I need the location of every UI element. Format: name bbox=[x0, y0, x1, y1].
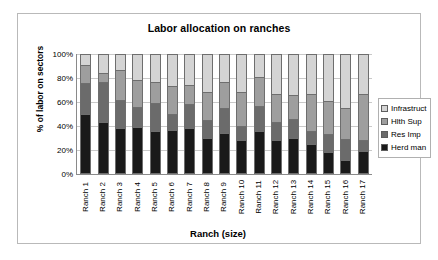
bar-segment[interactable] bbox=[254, 106, 265, 131]
bar-segment[interactable] bbox=[254, 77, 265, 106]
bar-segment[interactable] bbox=[254, 131, 265, 174]
bar-segment[interactable] bbox=[271, 94, 282, 123]
bar-column[interactable] bbox=[98, 54, 109, 174]
bar-segment[interactable] bbox=[98, 82, 109, 123]
bar-column[interactable] bbox=[306, 54, 317, 174]
bar-segment[interactable] bbox=[150, 103, 161, 131]
bar-segment[interactable] bbox=[236, 54, 247, 92]
bar-column[interactable] bbox=[236, 54, 247, 174]
bar-segment[interactable] bbox=[184, 128, 195, 174]
x-axis-tick-label: Ranch 3 bbox=[115, 182, 124, 212]
x-axis-tick-label: Ranch 14 bbox=[306, 180, 315, 214]
bar-segment[interactable] bbox=[132, 107, 143, 127]
bar-column[interactable] bbox=[167, 54, 178, 174]
x-axis-tick-label: Ranch 17 bbox=[358, 180, 367, 214]
bar-segment[interactable] bbox=[80, 54, 91, 65]
bar-segment[interactable] bbox=[358, 140, 369, 151]
bar-segment[interactable] bbox=[271, 140, 282, 174]
bar-column[interactable] bbox=[80, 54, 91, 174]
bar-segment[interactable] bbox=[184, 104, 195, 128]
legend-item[interactable]: Herd man bbox=[381, 141, 427, 154]
bar-column[interactable] bbox=[115, 54, 126, 174]
bar-segment[interactable] bbox=[254, 54, 265, 77]
x-axis-tick-wrapper: Ranch 10 bbox=[235, 175, 246, 227]
bar-segment[interactable] bbox=[271, 54, 282, 94]
bar-segment[interactable] bbox=[167, 54, 178, 86]
bar-segment[interactable] bbox=[340, 108, 351, 139]
bar-segment[interactable] bbox=[115, 100, 126, 129]
bar-column[interactable] bbox=[254, 54, 265, 174]
bar-segment[interactable] bbox=[340, 54, 351, 108]
x-axis-tick-label: Ranch 7 bbox=[184, 182, 193, 212]
x-axis-tick-label: Ranch 15 bbox=[323, 180, 332, 214]
bar-segment[interactable] bbox=[306, 94, 317, 131]
bar-column[interactable] bbox=[132, 54, 143, 174]
bar-segment[interactable] bbox=[98, 73, 109, 81]
bar-column[interactable] bbox=[202, 54, 213, 174]
bar-segment[interactable] bbox=[132, 54, 143, 80]
bar-segment[interactable] bbox=[358, 94, 369, 141]
bar-segment[interactable] bbox=[150, 131, 161, 174]
bar-segment[interactable] bbox=[184, 85, 195, 104]
bar-segment[interactable] bbox=[98, 122, 109, 174]
bar-segment[interactable] bbox=[288, 119, 299, 138]
legend-color-swatch-icon bbox=[381, 118, 388, 125]
bar-column[interactable] bbox=[288, 54, 299, 174]
bar-segment[interactable] bbox=[115, 70, 126, 100]
bar-segment[interactable] bbox=[202, 54, 213, 92]
bar-segment[interactable] bbox=[150, 54, 161, 82]
bar-segment[interactable] bbox=[132, 80, 143, 106]
bar-column[interactable] bbox=[219, 54, 230, 174]
legend-item[interactable]: Hlth Sup bbox=[381, 115, 427, 128]
bar-column[interactable] bbox=[340, 54, 351, 174]
legend-item[interactable]: Res Imp bbox=[381, 128, 427, 141]
bar-segment[interactable] bbox=[323, 152, 334, 174]
bar-segment[interactable] bbox=[219, 54, 230, 82]
legend-item[interactable]: Infrastruct bbox=[381, 102, 427, 115]
bar-segment[interactable] bbox=[288, 138, 299, 174]
bar-segment[interactable] bbox=[167, 130, 178, 174]
bar-segment[interactable] bbox=[115, 128, 126, 174]
bar-segment[interactable] bbox=[167, 86, 178, 114]
bar-column[interactable] bbox=[184, 54, 195, 174]
bar-column[interactable] bbox=[150, 54, 161, 174]
bar-segment[interactable] bbox=[358, 151, 369, 174]
bar-segment[interactable] bbox=[306, 54, 317, 94]
bar-segment[interactable] bbox=[115, 54, 126, 70]
bar-segment[interactable] bbox=[219, 133, 230, 174]
bar-segment[interactable] bbox=[323, 101, 334, 135]
bar-segment[interactable] bbox=[202, 120, 213, 138]
bar-column[interactable] bbox=[358, 54, 369, 174]
bar-segment[interactable] bbox=[236, 92, 247, 126]
bar-segment[interactable] bbox=[271, 122, 282, 140]
bar-segment[interactable] bbox=[306, 144, 317, 174]
bar-segment[interactable] bbox=[358, 54, 369, 94]
bar-segment[interactable] bbox=[236, 140, 247, 174]
bar-segment[interactable] bbox=[132, 127, 143, 174]
bar-segment[interactable] bbox=[323, 54, 334, 101]
bar-segment[interactable] bbox=[340, 139, 351, 159]
bar-segment[interactable] bbox=[236, 126, 247, 140]
bar-segment[interactable] bbox=[288, 95, 299, 119]
bar-segment[interactable] bbox=[202, 92, 213, 120]
bar-column[interactable] bbox=[271, 54, 282, 174]
x-axis-tick-wrapper: Ranch 14 bbox=[305, 175, 316, 227]
bar-segment[interactable] bbox=[323, 134, 334, 152]
bar-segment[interactable] bbox=[340, 160, 351, 174]
bar-segment[interactable] bbox=[167, 114, 178, 130]
bar-segment[interactable] bbox=[202, 138, 213, 174]
bar-segment[interactable] bbox=[219, 108, 230, 133]
x-axis-tick-label: Ranch 5 bbox=[150, 182, 159, 212]
bar-segment[interactable] bbox=[219, 82, 230, 108]
y-axis-tick-label: 100% bbox=[53, 50, 73, 59]
bar-segment[interactable] bbox=[184, 54, 195, 85]
x-axis-tick-wrapper: Ranch 16 bbox=[339, 175, 350, 227]
bar-segment[interactable] bbox=[80, 65, 91, 83]
bar-segment[interactable] bbox=[98, 54, 109, 73]
bar-segment[interactable] bbox=[150, 82, 161, 104]
bar-segment[interactable] bbox=[306, 131, 317, 144]
bar-segment[interactable] bbox=[288, 54, 299, 95]
bar-segment[interactable] bbox=[80, 114, 91, 174]
bar-segment[interactable] bbox=[80, 83, 91, 114]
bar-column[interactable] bbox=[323, 54, 334, 174]
